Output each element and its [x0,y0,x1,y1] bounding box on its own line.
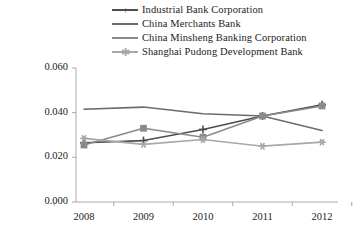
legend-item-china-minsheng-banking-corporation: China Minsheng Banking Corporation [112,31,342,45]
series-marker-square [81,142,88,149]
series-marker-square [259,113,266,120]
y-axis-tick-label: 0.000 [16,195,68,206]
y-axis-tick-label: 0.020 [16,150,68,161]
y-axis-tick-label: 0.060 [16,61,68,72]
series-marker-square [140,125,147,132]
legend-marker-square-icon [112,31,138,45]
y-axis-tick-label: 0.040 [16,106,68,117]
x-axis-tick-label: 2012 [297,211,347,222]
chart-screenshot: + Industrial Bank Corporation China Merc… [0,0,358,244]
legend-label: China Merchants Bank [142,17,241,31]
chart-legend: + Industrial Bank Corporation China Merc… [112,3,342,59]
legend-marker-line-icon [112,17,138,31]
legend-label: Industrial Bank Corporation [142,3,263,17]
legend-marker-plus-icon: + [112,3,138,17]
legend-label: China Minsheng Banking Corporation [142,31,307,45]
legend-item-china-merchants-bank: China Merchants Bank [112,17,342,31]
x-axis-tick-label: 2008 [59,211,109,222]
plot-area: 0.0000.0200.0400.06020082009201020112012 [0,56,358,244]
x-axis-tick-label: 2009 [119,211,169,222]
x-axis-tick-label: 2010 [178,211,228,222]
legend-item-industrial-bank-corporation: + Industrial Bank Corporation [112,3,342,17]
series-marker-square [319,103,326,110]
x-axis-tick-label: 2011 [238,211,288,222]
